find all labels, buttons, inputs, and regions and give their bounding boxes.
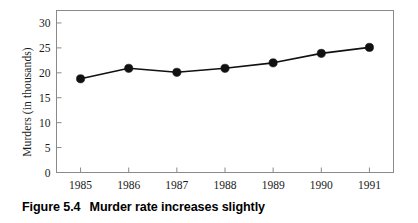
x-tick-label: 1989	[251, 179, 295, 191]
x-tick-label: 1986	[107, 179, 151, 191]
chart-plot-area: Murders (in thousands) 051015202530 1985…	[0, 0, 418, 196]
line-chart-svg	[0, 0, 418, 196]
y-tick-label: 20	[27, 67, 51, 79]
y-tick-label: 0	[27, 167, 51, 179]
data-point-marker	[365, 43, 373, 51]
figure-caption-number: Figure 5.4	[22, 200, 81, 214]
x-tick-label: 1990	[299, 179, 343, 191]
plot-frame	[57, 11, 394, 173]
data-point-marker	[125, 64, 133, 72]
x-tick-label: 1991	[347, 179, 391, 191]
y-tick-label: 15	[27, 92, 51, 104]
figure-caption-text: Murder rate increases slightly	[90, 200, 265, 214]
data-point-marker	[317, 49, 325, 57]
data-point-marker	[76, 75, 84, 83]
figure-container: Murders (in thousands) 051015202530 1985…	[0, 0, 418, 223]
figure-caption: Figure 5.4Murder rate increases slightly	[22, 200, 265, 214]
y-tick-label: 10	[27, 117, 51, 129]
y-tick-label: 25	[27, 42, 51, 54]
data-point-marker	[173, 68, 181, 76]
y-tick-label: 5	[27, 142, 51, 154]
x-tick-label: 1985	[59, 179, 103, 191]
data-point-marker	[221, 64, 229, 72]
y-tick-label: 30	[27, 17, 51, 29]
data-point-marker	[269, 59, 277, 67]
x-tick-label: 1987	[155, 179, 199, 191]
x-tick-label: 1988	[203, 179, 247, 191]
